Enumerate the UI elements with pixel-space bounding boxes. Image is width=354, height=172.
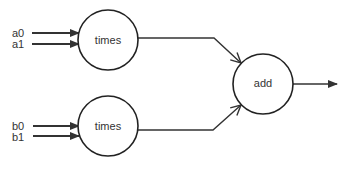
input-label-a1: a1	[12, 38, 24, 50]
node-times-top: times	[78, 10, 138, 70]
node-label: times	[95, 34, 122, 46]
node-add: add	[233, 54, 293, 114]
edge-times1-to-add	[138, 38, 241, 63]
edge-times2-to-add	[138, 105, 241, 130]
node-label: add	[254, 77, 272, 89]
node-times-bottom: times	[78, 96, 138, 156]
dataflow-diagram: a0 a1 b0 b1 times times add	[0, 0, 354, 172]
input-label-b1: b1	[12, 131, 24, 143]
node-label: times	[95, 120, 122, 132]
